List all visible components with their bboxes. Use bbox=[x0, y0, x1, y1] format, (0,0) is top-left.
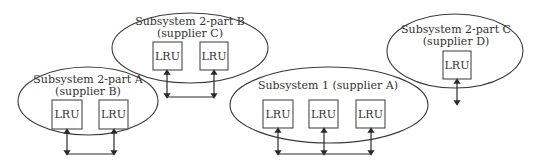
lru-label: LRU bbox=[266, 108, 291, 121]
lru-label: LRU bbox=[155, 50, 180, 63]
lru-label: LRU bbox=[358, 108, 383, 121]
lru-box: LRU bbox=[52, 100, 82, 129]
lru-box: LRU bbox=[443, 51, 471, 79]
lru-label: LRU bbox=[311, 108, 336, 121]
subsystem-lru-diagram: Subsystem 2-part B (supplier C) LRU LRU … bbox=[0, 0, 539, 165]
subsystem-1-title: Subsystem 1 (supplier A) bbox=[258, 79, 398, 92]
lru-box: LRU bbox=[309, 100, 338, 128]
lru-box: LRU bbox=[153, 42, 182, 70]
subsystem-1: Subsystem 1 (supplier A) LRU LRU LRU bbox=[230, 67, 428, 154]
subsystem-2-part-b-supplier: (supplier C) bbox=[157, 27, 223, 40]
lru-box: LRU bbox=[356, 100, 385, 128]
lru-box: LRU bbox=[99, 100, 128, 129]
lru-label: LRU bbox=[445, 59, 470, 72]
lru-label: LRU bbox=[55, 108, 80, 121]
subsystem-2-part-a-supplier: (supplier B) bbox=[55, 85, 121, 98]
lru-box: LRU bbox=[263, 100, 293, 128]
lru-box: LRU bbox=[200, 42, 228, 70]
lru-label: LRU bbox=[202, 50, 227, 63]
bus-connector bbox=[167, 72, 214, 97]
subsystem-2-part-c-supplier: (supplier D) bbox=[423, 35, 490, 48]
lru-label: LRU bbox=[101, 108, 126, 121]
subsystem-2-part-c: Subsystem 2-part C (supplier D) LRU bbox=[387, 14, 523, 103]
subsystem-2-part-a: Subsystem 2-part A (supplier B) LRU LRU bbox=[18, 67, 158, 154]
